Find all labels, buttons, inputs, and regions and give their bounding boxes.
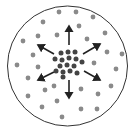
center-particle xyxy=(61,70,66,75)
center-particle xyxy=(59,51,64,56)
outer-particle xyxy=(55,99,60,104)
outer-particle xyxy=(40,105,45,110)
outer-particle xyxy=(36,34,41,39)
outer-particle xyxy=(21,39,26,44)
outer-particle xyxy=(77,24,82,29)
center-particle xyxy=(75,71,80,76)
outer-particle xyxy=(79,107,84,112)
center-particle xyxy=(53,57,58,62)
outer-particle xyxy=(74,10,79,15)
outer-particle xyxy=(60,115,65,120)
outer-particle xyxy=(52,84,57,89)
center-particle xyxy=(66,50,71,55)
outer-particle xyxy=(31,53,36,58)
arrow-upper-right-icon xyxy=(83,44,100,54)
outer-particle xyxy=(41,20,46,25)
outer-particle xyxy=(26,94,31,99)
arrow-lower-right-icon xyxy=(84,71,100,80)
center-particle xyxy=(65,63,70,68)
outer-particle xyxy=(36,65,41,70)
outer-particle xyxy=(91,15,96,20)
diffusion-arrows xyxy=(38,26,100,98)
outer-particle xyxy=(120,52,125,57)
center-particle xyxy=(73,50,78,55)
diffusion-diagram xyxy=(0,0,135,132)
outer-particle xyxy=(43,88,48,93)
outer-particle xyxy=(15,63,20,68)
arrow-lower-left-icon xyxy=(38,72,54,80)
outer-particle xyxy=(109,84,114,89)
outer-particle xyxy=(95,107,100,112)
outer-particle xyxy=(85,37,90,42)
outer-particle xyxy=(96,92,101,97)
center-particle xyxy=(72,64,77,69)
outer-particle xyxy=(105,50,110,55)
outer-particle xyxy=(55,33,60,38)
center-particle xyxy=(54,69,59,74)
arrow-upper-left-icon xyxy=(38,45,54,54)
center-particle xyxy=(58,64,63,69)
outer-particle xyxy=(92,61,97,66)
center-particle xyxy=(74,57,79,62)
center-particle xyxy=(67,56,72,61)
center-particle-cluster xyxy=(53,50,85,80)
outer-particle xyxy=(114,67,119,72)
outer-particle xyxy=(26,76,31,81)
center-particle xyxy=(68,69,73,74)
outer-particle xyxy=(79,87,84,92)
outer-particle xyxy=(57,10,62,15)
center-particle xyxy=(61,75,66,80)
center-particle xyxy=(80,60,85,65)
outer-particle xyxy=(103,31,108,36)
center-particle xyxy=(60,58,65,63)
